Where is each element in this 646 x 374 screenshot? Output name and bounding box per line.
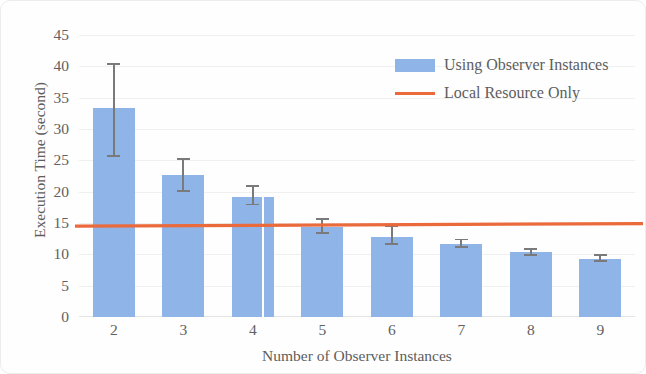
legend-item-label: Using Observer Instances (444, 56, 608, 74)
legend-item-label: Local Resource Only (444, 84, 580, 102)
x-axis-tick-label: 4 (218, 321, 288, 339)
y-axis-tick-label: 0 (1, 309, 69, 325)
x-axis-title: Number of Observer Instances (79, 347, 635, 365)
chart-legend: Using Observer InstancesLocal Resource O… (395, 51, 608, 107)
chart-figure: Execution Time (second) 0510152025303540… (0, 0, 646, 374)
x-axis-tick-labels: 23456789 (79, 321, 635, 345)
y-axis-tick-label: 15 (1, 215, 69, 231)
legend-line-swatch-icon (395, 87, 435, 100)
legend-item: Local Resource Only (395, 79, 608, 107)
legend-item: Using Observer Instances (395, 51, 608, 79)
y-axis-tick-label: 30 (1, 121, 69, 137)
local-resource-threshold-line (75, 224, 643, 227)
x-axis-tick-label: 5 (288, 321, 358, 339)
y-axis-tick-label: 25 (1, 152, 69, 168)
y-axis-tick-label: 45 (1, 27, 69, 43)
x-axis-tick-label: 7 (427, 321, 497, 339)
y-axis-tick-label: 40 (1, 58, 69, 74)
y-axis-tick-labels: 051015202530354045 (1, 35, 75, 317)
y-axis-tick-label: 10 (1, 246, 69, 262)
x-axis-tick-label: 9 (566, 321, 636, 339)
legend-bar-swatch-icon (395, 59, 435, 72)
y-axis-tick-label: 20 (1, 184, 69, 200)
x-axis-tick-label: 6 (357, 321, 427, 339)
x-axis-tick-label: 2 (79, 321, 149, 339)
x-axis-tick-label: 8 (496, 321, 566, 339)
y-axis-tick-label: 35 (1, 90, 69, 106)
y-axis-tick-label: 5 (1, 278, 69, 294)
x-axis-tick-label: 3 (149, 321, 219, 339)
